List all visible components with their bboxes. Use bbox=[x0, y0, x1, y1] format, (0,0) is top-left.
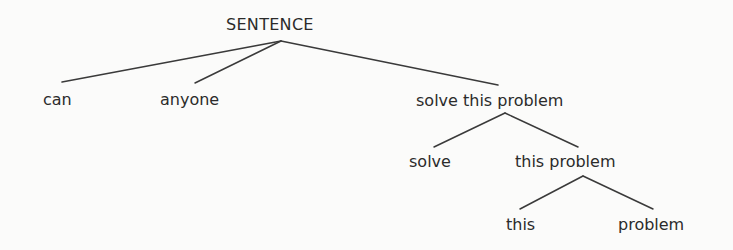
node-can: can bbox=[43, 92, 72, 108]
node-anyone: anyone bbox=[160, 92, 219, 108]
node-this-problem: this problem bbox=[515, 154, 615, 170]
node-problem: problem bbox=[618, 217, 684, 233]
node-sentence: SENTENCE bbox=[226, 17, 314, 33]
edge-np-this bbox=[520, 176, 583, 209]
node-this: this bbox=[506, 217, 535, 233]
edge-np-problem bbox=[583, 176, 653, 209]
edge-root-can bbox=[62, 41, 281, 82]
edge-root-anyone bbox=[195, 41, 281, 83]
tree-edges bbox=[0, 0, 733, 250]
node-solve: solve bbox=[409, 154, 451, 170]
tree-diagram: SENTENCE can anyone solve this problem s… bbox=[0, 0, 733, 250]
edge-vp-solve bbox=[434, 113, 505, 147]
node-solve-this-problem: solve this problem bbox=[416, 93, 563, 109]
edge-vp-np bbox=[505, 113, 578, 147]
edge-root-vp bbox=[281, 41, 498, 85]
